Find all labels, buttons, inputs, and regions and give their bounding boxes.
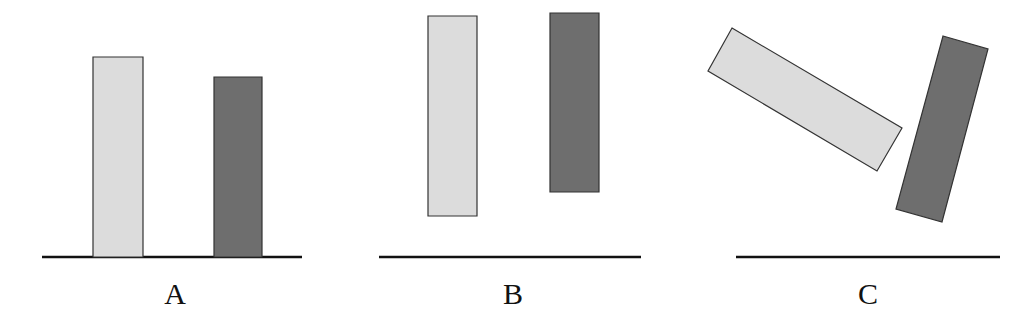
panel-c xyxy=(708,28,1000,257)
panel-label-a: A xyxy=(145,276,205,312)
light-bar xyxy=(428,16,477,216)
panel-label-c: C xyxy=(838,276,898,312)
light-bar xyxy=(93,57,143,257)
dark-bar xyxy=(550,13,599,192)
panel-b xyxy=(379,13,641,257)
diagram-stage: A B C xyxy=(0,0,1029,332)
dark-bar xyxy=(214,77,262,257)
panel-a xyxy=(42,57,302,257)
panel-label-b: B xyxy=(483,276,543,312)
dark-bar xyxy=(896,36,988,222)
light-bar xyxy=(708,28,902,171)
